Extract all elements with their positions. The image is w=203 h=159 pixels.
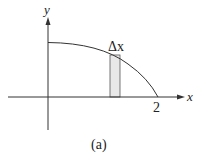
figure-caption: (a) [91, 138, 107, 152]
x-tick-label: 2 [153, 101, 160, 115]
y-axis-arrow-icon [46, 17, 51, 25]
plot-canvas [0, 0, 203, 159]
delta-x-label: Δx [108, 40, 124, 54]
function-curve [48, 43, 158, 98]
y-axis-label: y [44, 3, 50, 16]
x-axis-arrow-icon [177, 95, 185, 100]
x-axis-label: x [187, 90, 193, 103]
diagram-figure: y x 2 Δx (a) [0, 0, 203, 159]
delta-x-strip [110, 55, 120, 97]
